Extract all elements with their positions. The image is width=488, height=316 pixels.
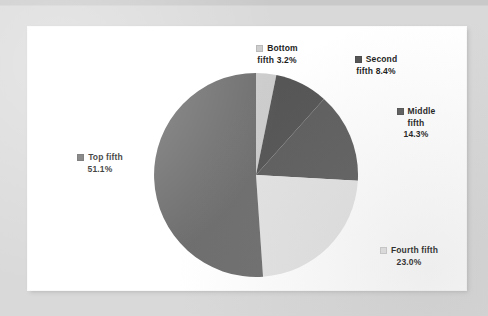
- pie-label-second-fifth: Second fifth 8.4%: [324, 54, 428, 77]
- legend-swatch-top-fifth: [77, 154, 84, 161]
- pie-chart: [153, 72, 359, 278]
- pie-label-middle-fifth-line2: fifth: [366, 118, 466, 130]
- pie-label-second-fifth-line1: Second: [366, 54, 398, 64]
- legend-swatch-bottom-fifth: [256, 45, 263, 52]
- pie-label-fourth-fifth-line2: 23.0%: [352, 257, 466, 269]
- page-background: Bottom fifth 3.2% Second fifth 8.4% Midd…: [0, 0, 488, 316]
- pie-label-top-fifth-line2: 51.1%: [44, 164, 156, 176]
- pie-label-middle-fifth: Middle fifth 14.3%: [366, 106, 466, 141]
- pie-slice-top-fifth[interactable]: [154, 73, 263, 277]
- chart-panel: Bottom fifth 3.2% Second fifth 8.4% Midd…: [28, 27, 466, 290]
- pie-label-fourth-fifth: Fourth fifth 23.0%: [352, 245, 466, 268]
- pie-slice-fourth-fifth[interactable]: [256, 175, 358, 277]
- pie-label-top-fifth: Top fifth 51.1%: [44, 152, 156, 175]
- legend-swatch-fourth-fifth: [380, 247, 387, 254]
- pie-label-middle-fifth-line3: 14.3%: [366, 129, 466, 141]
- pie-label-bottom-fifth-line1: Bottom: [267, 43, 298, 53]
- pie-chart-plot-area: Bottom fifth 3.2% Second fifth 8.4% Midd…: [28, 27, 466, 290]
- pie-label-bottom-fifth: Bottom fifth 3.2%: [224, 43, 330, 66]
- legend-swatch-middle-fifth: [397, 108, 404, 115]
- pie-label-middle-fifth-line1: Middle: [408, 106, 436, 116]
- pie-label-fourth-fifth-line1: Fourth fifth: [391, 245, 438, 255]
- pie-label-second-fifth-line2: fifth 8.4%: [324, 66, 428, 78]
- pie-label-top-fifth-line1: Top fifth: [88, 152, 123, 162]
- legend-swatch-second-fifth: [355, 56, 362, 63]
- pie-label-bottom-fifth-line2: fifth 3.2%: [224, 55, 330, 67]
